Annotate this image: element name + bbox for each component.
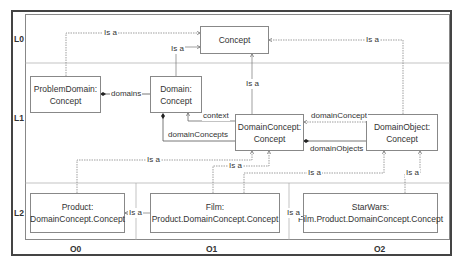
edge-label-film-isa-do: Is a	[307, 168, 322, 178]
node-title: Domain:	[160, 83, 192, 95]
edge-label-domain-concept: domainConcept	[310, 111, 368, 121]
edge-label-domainobject-isa: Is a	[365, 35, 380, 45]
edge-label-starwars-isa: Is a	[405, 168, 420, 178]
node-title: StarWars:	[352, 201, 389, 213]
node-domain-concept[interactable]: DomainConcept: Concept	[235, 114, 304, 151]
node-type: Product.DomainConcept.Concept	[152, 213, 279, 225]
edge-label-context: context	[202, 111, 230, 121]
node-problem-domain[interactable]: ProblemDomain: Concept	[30, 76, 101, 113]
column-label-o2: O2	[374, 244, 385, 254]
node-type: Concept	[254, 133, 286, 145]
node-starwars[interactable]: StarWars: Film.Product.DomainConcept.Con…	[303, 193, 438, 233]
column-label-o0: O0	[70, 244, 81, 254]
column-label-o1: O1	[206, 244, 217, 254]
edge-label-domain-isa: Is a	[170, 44, 185, 54]
edge-label-domain-concepts: domainConcepts	[167, 130, 229, 140]
node-domain-object[interactable]: DomainObject: Concept	[366, 114, 438, 151]
node-title: Film:	[206, 201, 224, 213]
node-type: Film.Product.DomainConcept.Concept	[298, 213, 443, 225]
node-type: DomainConcept.Concept	[30, 213, 125, 225]
edge-label-domainconcept-isa: Is a	[245, 79, 260, 89]
edge-label-product-film-isa: Is a	[128, 208, 143, 218]
node-concept[interactable]: Concept	[200, 26, 269, 54]
edge-label-product-isa-dc: Is a	[146, 155, 161, 165]
edge-label-problemdomain-isa: Is a	[103, 28, 118, 38]
row-label-l2: L2	[14, 208, 24, 218]
row-label-l1: L1	[14, 113, 24, 123]
edge-label-film-starwars-isa: Is a	[286, 208, 301, 218]
edge-label-film-isa-dc: Is a	[228, 161, 243, 171]
node-title: Concept	[219, 34, 251, 46]
edge-label-domains: domains	[110, 89, 142, 99]
edge-label-domain-objects: domainObjects	[309, 144, 364, 154]
node-title: DomainConcept:	[238, 121, 301, 133]
node-film[interactable]: Film: Product.DomainConcept.Concept	[150, 193, 280, 233]
node-title: ProblemDomain:	[34, 83, 97, 95]
row-label-l0: L0	[14, 34, 24, 44]
node-type: Concept	[386, 133, 418, 145]
node-type: Concept	[50, 95, 82, 107]
node-title: DomainObject:	[374, 121, 430, 133]
node-type: Concept	[160, 95, 192, 107]
node-product[interactable]: Product: DomainConcept.Concept	[30, 193, 125, 233]
node-title: Product:	[62, 201, 94, 213]
node-domain[interactable]: Domain: Concept	[150, 76, 202, 113]
